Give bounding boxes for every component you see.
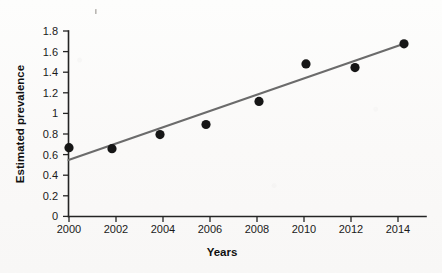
y-tick-label-1_6: 1.6 [43,46,58,58]
y-tick-label-1_8: 1.8 [43,25,58,37]
y-axis-title: Estimated prevalence [14,65,26,183]
y-tick-label-0_6: 0.6 [43,149,58,161]
data-point-2008 [254,97,263,106]
data-point-2006 [201,120,210,129]
scatter-chart: 1.8 1.6 1.4 1.2 1 0.8 0.6 0.4 0.2 0 Esti… [0,0,442,273]
y-tick-label-1: 1 [52,107,58,119]
data-point-2004 [155,130,164,139]
x-axis: 2000 2002 2004 2006 2008 2010 2012 2014 … [57,217,426,259]
y-axis: 1.8 1.6 1.4 1.2 1 0.8 0.6 0.4 0.2 0 Esti… [14,25,69,222]
x-tick-label-2014: 2014 [386,223,410,235]
y-tick-label-1_2: 1.2 [43,87,58,99]
scan-speck [95,9,97,14]
data-point-2010 [301,59,310,68]
y-tick-label-1_4: 1.4 [43,66,58,78]
x-tick-label-2010: 2010 [292,223,316,235]
chart-screenshot: 1.8 1.6 1.4 1.2 1 0.8 0.6 0.4 0.2 0 Esti… [0,0,442,273]
x-axis-title: Years [207,246,238,258]
x-tick-label-2000: 2000 [57,223,81,235]
y-tick-label-0_2: 0.2 [43,190,58,202]
y-tick-label-0_4: 0.4 [43,169,58,181]
data-point-series [64,39,408,153]
x-tick-label-2008: 2008 [245,223,269,235]
data-point-2012 [350,63,359,72]
data-point-2002 [107,144,116,153]
x-tick-label-2006: 2006 [198,223,222,235]
y-tick-label-0_8: 0.8 [43,128,58,140]
trendline [69,44,405,160]
data-point-2000 [64,143,73,152]
x-tick-label-2004: 2004 [151,223,175,235]
y-tick-label-0: 0 [52,210,58,222]
x-tick-label-2002: 2002 [104,223,128,235]
trendline-series [69,44,405,160]
data-point-2014 [399,39,408,48]
x-tick-label-2012: 2012 [339,223,363,235]
